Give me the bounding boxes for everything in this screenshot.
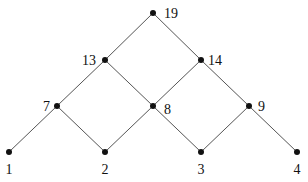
edge-9-3 — [201, 106, 249, 152]
edge-9-4 — [249, 106, 297, 152]
edge-7-2 — [57, 106, 105, 152]
node-1 — [6, 149, 12, 155]
labels-group: 1913147891234 — [6, 6, 301, 177]
node-19 — [150, 10, 156, 16]
node-label-7: 7 — [43, 99, 50, 114]
edge-13-8 — [105, 60, 153, 106]
lattice-diagram: 1913147891234 — [0, 0, 308, 182]
node-label-4: 4 — [294, 162, 301, 177]
edge-19-13 — [105, 13, 153, 60]
node-label-14: 14 — [208, 53, 222, 68]
node-label-9: 9 — [258, 99, 265, 114]
edges-group — [9, 13, 297, 152]
node-13 — [102, 57, 108, 63]
node-14 — [198, 57, 204, 63]
nodes-group — [6, 10, 300, 155]
node-3 — [198, 149, 204, 155]
edge-8-3 — [153, 106, 201, 152]
node-label-1: 1 — [6, 162, 13, 177]
edge-13-7 — [57, 60, 105, 106]
node-label-2: 2 — [102, 162, 109, 177]
node-label-8: 8 — [164, 102, 171, 117]
node-2 — [102, 149, 108, 155]
node-4 — [294, 149, 300, 155]
node-label-3: 3 — [198, 162, 205, 177]
node-7 — [54, 103, 60, 109]
edge-8-2 — [105, 106, 153, 152]
node-8 — [150, 103, 156, 109]
edge-14-8 — [153, 60, 201, 106]
node-label-13: 13 — [82, 53, 96, 68]
node-label-19: 19 — [164, 6, 178, 21]
node-9 — [246, 103, 252, 109]
